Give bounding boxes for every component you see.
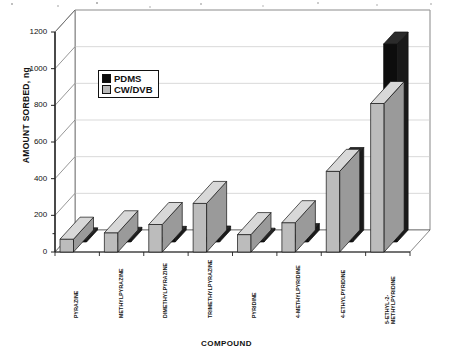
bar-cwdvb-6-front: [326, 171, 340, 252]
x-category-label-2-line-0: DIMETHYLPYRAZINE: [162, 263, 168, 318]
x-category-label-6-line-0: 4-ETHYLPYRIDINE: [340, 270, 346, 318]
x-category-label-7-line-1: METHYLPYRIDINE: [390, 276, 396, 324]
bar-cwdvb-5-front: [282, 223, 296, 252]
x-category-label-0: PYRAZINE: [73, 291, 79, 318]
legend-item-pdms: PDMS: [102, 73, 153, 84]
legend-item-cwdvb: CW/DVB: [102, 84, 153, 95]
x-category-label-6: 4-ETHYLPYRIDINE: [340, 270, 346, 318]
x-category-label-1: METHYLPYRAZINE: [118, 268, 124, 318]
legend-swatch-pdms: [102, 74, 111, 83]
x-category-label-5: 4-METHYLPYRIDINE: [295, 265, 301, 318]
bar-cwdvb-2-front: [149, 225, 163, 253]
legend-label-cwdvb: CW/DVB: [114, 84, 153, 95]
legend-label-pdms: PDMS: [114, 73, 141, 84]
x-category-label-5-line-0: 4-METHYLPYRIDINE: [295, 265, 301, 318]
x-category-label-0-line-0: PYRAZINE: [73, 291, 79, 318]
bar-cwdvb-0-front: [60, 239, 74, 252]
x-category-label-4-line-0: PYRIDINE: [251, 292, 257, 318]
x-category-label-7: 5-ETHYL-2-METHYLPYRIDINE: [384, 276, 396, 324]
x-category-label-2: DIMETHYLPYRAZINE: [162, 263, 168, 318]
bar-cwdvb-4-front: [238, 235, 252, 252]
chart-legend: PDMS CW/DVB: [98, 70, 159, 98]
x-category-label-1-line-0: METHYLPYRAZINE: [118, 268, 124, 318]
bar-cwdvb-1-front: [104, 233, 118, 252]
bar-chart: AMOUNT SORBED, ng COMPOUND 0200400600800…: [0, 0, 453, 360]
legend-swatch-cwdvb: [102, 85, 111, 94]
bar-cwdvb-3-front: [193, 203, 207, 252]
x-category-label-4: PYRIDINE: [251, 292, 257, 318]
x-category-label-3-line-0: TRIMETHYLPYRAZINE: [207, 260, 213, 318]
bar-cwdvb-7-side: [384, 82, 404, 253]
bar-cwdvb-7-front: [371, 104, 385, 253]
x-category-label-3: TRIMETHYLPYRAZINE: [207, 260, 213, 318]
